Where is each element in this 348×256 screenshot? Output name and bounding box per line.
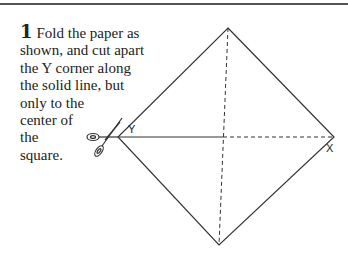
scissors-icon <box>87 118 122 158</box>
fold-diagram: Y X <box>0 0 348 256</box>
corner-label-x: X <box>326 142 334 154</box>
corner-label-y: Y <box>128 123 136 135</box>
